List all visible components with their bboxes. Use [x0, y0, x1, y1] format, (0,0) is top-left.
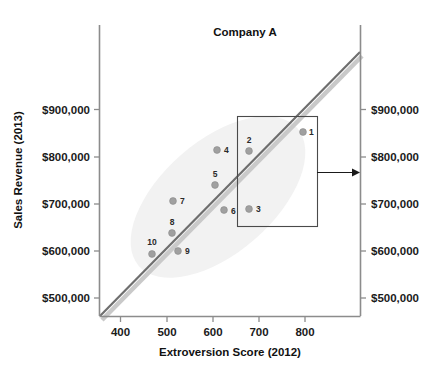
- data-point-10[interactable]: [149, 251, 156, 258]
- x-axis-tick-labels: 400 500 600 700 800: [111, 326, 315, 338]
- data-point-label-7: 7: [180, 196, 185, 206]
- data-point-7[interactable]: [170, 198, 177, 205]
- y-tick-label-right-900000: $900,000: [371, 104, 419, 116]
- data-point-2[interactable]: [246, 148, 253, 155]
- data-point-label-2: 2: [247, 135, 252, 145]
- x-tick-label-600: 600: [203, 326, 222, 338]
- y-tick-label-left-500000: $500,000: [42, 292, 90, 304]
- data-point-3[interactable]: [246, 206, 253, 213]
- y-tick-label-right-700000: $700,000: [371, 198, 419, 210]
- y-tick-label-left-800000: $800,000: [42, 151, 90, 163]
- y-tick-label-right-500000: $500,000: [371, 292, 419, 304]
- y-tick-label-right-800000: $800,000: [371, 151, 419, 163]
- x-tick-label-500: 500: [157, 326, 176, 338]
- chart-canvas: $900,000 $800,000 $700,000 $600,000 $500…: [0, 0, 445, 372]
- y-tick-label-right-600000: $600,000: [371, 245, 419, 257]
- data-point-label-10: 10: [147, 237, 157, 247]
- callout-arrow: [317, 169, 360, 177]
- data-point-9[interactable]: [175, 248, 182, 255]
- y-tick-label-left-600000: $600,000: [42, 245, 90, 257]
- data-point-6[interactable]: [221, 207, 228, 214]
- scatter-chart: $900,000 $800,000 $700,000 $600,000 $500…: [0, 0, 445, 372]
- x-axis-title: Extroversion Score (2012): [159, 346, 301, 358]
- y-tick-label-left-900000: $900,000: [42, 104, 90, 116]
- y-tick-label-left-700000: $700,000: [42, 198, 90, 210]
- data-point-1[interactable]: [300, 129, 307, 136]
- data-point-label-9: 9: [185, 246, 190, 256]
- data-point-label-3: 3: [256, 204, 261, 214]
- chart-title: Company A: [213, 26, 276, 38]
- y-axis-left-tick-labels: $900,000 $800,000 $700,000 $600,000 $500…: [42, 104, 90, 305]
- y-axis-right-tick-labels: $900,000 $800,000 $700,000 $600,000 $500…: [371, 104, 419, 305]
- trendline-shadow: [102, 56, 362, 320]
- x-tick-label-400: 400: [111, 326, 130, 338]
- data-point-label-5: 5: [213, 169, 218, 179]
- x-tick-label-700: 700: [249, 326, 268, 338]
- x-tick-label-800: 800: [295, 326, 314, 338]
- data-point-label-1: 1: [309, 127, 314, 137]
- data-point-4[interactable]: [214, 147, 221, 154]
- data-point-8[interactable]: [169, 230, 176, 237]
- data-point-label-6: 6: [231, 206, 236, 216]
- y-axis-title: Sales Revenue (2013): [12, 111, 24, 229]
- data-point-label-4: 4: [224, 145, 229, 155]
- trendline: [100, 52, 360, 316]
- data-point-label-8: 8: [170, 217, 175, 227]
- data-point-5[interactable]: [212, 182, 219, 189]
